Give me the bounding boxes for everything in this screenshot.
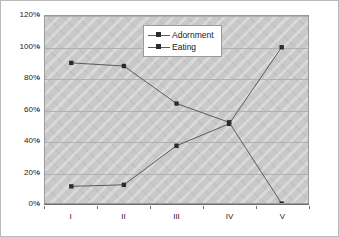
data-point-eating [174,101,178,105]
y-axis-tick [37,204,40,205]
y-axis-tick [37,78,40,79]
x-axis-tick [97,206,98,209]
series-line-adornment [71,47,281,186]
data-point-adornment [280,45,284,49]
x-axis-tick [150,206,151,209]
x-axis-tick [256,206,257,209]
x-axis-labels: IIIIIIIVV [44,206,309,228]
data-point-eating [122,64,126,68]
data-point-adornment [174,144,178,148]
y-axis-tick-label: 0% [2,200,40,208]
x-axis-tick-label: III [173,213,180,221]
y-axis-tick-label: 20% [2,169,40,177]
x-axis-line [44,204,309,205]
y-axis-tick-label: 120% [2,11,40,19]
x-axis-tick [203,206,204,209]
legend-item-eating: Eating [148,41,214,53]
x-axis-tick [44,206,45,209]
y-axis-tick-label: 80% [2,74,40,82]
x-axis-tick [309,206,310,209]
legend-label-eating: Eating [170,43,196,52]
y-axis-tick [37,110,40,111]
line-chart: 0%20%40%60%80%100%120% IIIIIIIVV Adornme… [0,0,339,237]
y-axis-tick [37,141,40,142]
legend-marker-eating [148,42,170,52]
y-axis-tick-label: 60% [2,106,40,114]
y-axis-tick [37,173,40,174]
legend-marker-adornment [148,30,170,40]
x-axis-tick-label: IV [226,213,234,221]
x-axis-tick-label: V [280,213,285,221]
x-axis-tick-label: II [121,213,125,221]
chart-legend: Adornment Eating [143,25,222,57]
y-axis-tick [37,15,40,16]
data-point-adornment [122,183,126,187]
legend-item-adornment: Adornment [148,29,214,41]
y-axis-tick-label: 40% [2,137,40,145]
series-line-eating [71,63,281,204]
data-point-eating [69,61,73,65]
legend-label-adornment: Adornment [170,31,214,40]
y-axis-tick [37,47,40,48]
x-axis-tick-label: I [69,213,71,221]
data-point-eating [227,120,231,124]
data-point-adornment [69,184,73,188]
y-axis-tick-label: 100% [2,43,40,51]
y-axis-labels: 0%20%40%60%80%100%120% [1,15,40,204]
